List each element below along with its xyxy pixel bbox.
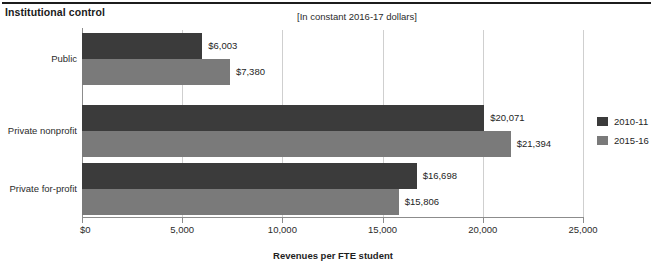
bar [82,189,399,215]
x-axis-line [82,217,584,218]
x-tick-mark [383,218,384,223]
legend-item: 2010-11 [597,112,649,131]
legend-item: 2015-16 [597,131,649,150]
bar [82,59,230,85]
legend-swatch-icon [597,136,608,145]
header-rule [2,2,651,4]
chart-legend: 2010-112015-16 [597,112,649,150]
bar [82,163,417,189]
x-tick-label: 5,000 [170,224,194,235]
bar-value-label: $7,380 [236,66,265,77]
chart-figure: Institutional control [In constant 2016-… [0,0,655,270]
x-tick-mark [282,218,283,223]
bar-value-label: $20,071 [490,112,524,123]
x-tick-label: 25,000 [568,224,597,235]
legend-label: 2015-16 [614,135,649,146]
chart-subtitle: [In constant 2016-17 dollars] [297,11,417,22]
chart-title: Institutional control [5,6,105,18]
bar-value-label: $16,698 [423,170,457,181]
x-tick-label: $0 [80,224,91,235]
legend-label: 2010-11 [614,116,648,127]
bar-value-label: $6,003 [208,40,237,51]
category-label: Private nonprofit [8,125,77,136]
x-tick-label: 15,000 [368,224,397,235]
x-tick-label: 10,000 [268,224,297,235]
gridline [583,30,584,217]
bar-value-label: $15,806 [405,196,439,207]
x-tick-mark [483,218,484,223]
x-axis-title: Revenues per FTE student [82,250,584,261]
legend-swatch-icon [597,117,608,126]
category-label: Public [51,53,77,64]
category-label: Private for-profit [9,183,77,194]
x-tick-mark [583,218,584,223]
x-tick-mark [182,218,183,223]
bar [82,131,511,157]
x-tick-mark [82,218,83,223]
bar [82,33,202,59]
bar-value-label: $21,394 [517,138,551,149]
bar [82,105,484,131]
x-tick-label: 20,000 [468,224,497,235]
